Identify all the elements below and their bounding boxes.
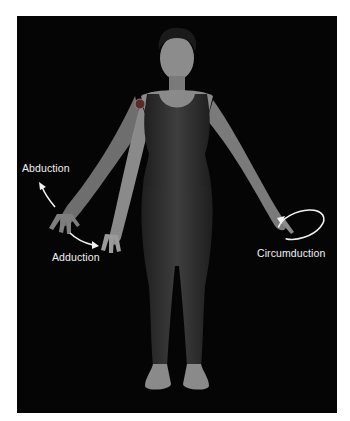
circumduction-label: Circumduction: [257, 247, 325, 259]
head: [159, 28, 196, 92]
anatomy-photo: [17, 16, 337, 413]
feet: [145, 364, 209, 390]
torso: [143, 94, 211, 188]
abduction-label: Abduction: [22, 162, 70, 174]
adduction-label: Adduction: [52, 251, 100, 263]
shoulder-joint-marker-icon: [135, 99, 145, 109]
abduction-arrow-icon: [42, 187, 55, 207]
right-arm: [207, 100, 294, 234]
adduction-arrow-icon: [70, 233, 93, 245]
legs: [141, 186, 212, 366]
figure-illustration: [17, 16, 337, 413]
